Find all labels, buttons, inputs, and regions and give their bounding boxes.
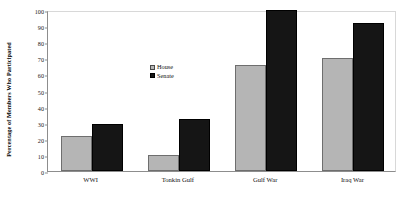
bar-house-iraq-war: [322, 58, 353, 171]
bar-house-gulf-war: [235, 65, 266, 171]
legend-item-house: House: [150, 63, 174, 72]
bar-group: [310, 12, 397, 171]
x-axis-label: Gulf War: [222, 176, 309, 184]
bar-chart: Percentage of Members Who Participated 0…: [0, 0, 415, 209]
bars-layer: [48, 12, 395, 171]
x-axis-label: Iraq War: [309, 176, 396, 184]
x-axis-label: Tonkin Gulf: [134, 176, 221, 184]
bar-senate-gulf-war: [266, 10, 297, 171]
y-axis-tick-mark: [45, 173, 48, 174]
bar-house-wwi: [61, 136, 92, 171]
bar-house-tonkin-gulf: [148, 155, 179, 171]
bar-senate-wwi: [92, 124, 123, 171]
legend-label: House: [157, 63, 173, 72]
plot-area: 0102030405060708090100: [47, 11, 396, 172]
bar-group: [223, 12, 310, 171]
legend-item-senate: Senate: [150, 72, 174, 81]
legend-label: Senate: [157, 72, 174, 81]
bar-senate-tonkin-gulf: [179, 119, 210, 171]
legend-swatch-icon: [150, 73, 155, 78]
bar-group: [48, 12, 135, 171]
legend-swatch-icon: [150, 65, 155, 70]
chart-legend: HouseSenate: [150, 63, 174, 80]
bar-group: [135, 12, 222, 171]
y-axis-title: Percentage of Members Who Participated: [2, 19, 16, 180]
bar-senate-iraq-war: [353, 23, 384, 171]
x-axis-label: WWI: [47, 176, 134, 184]
